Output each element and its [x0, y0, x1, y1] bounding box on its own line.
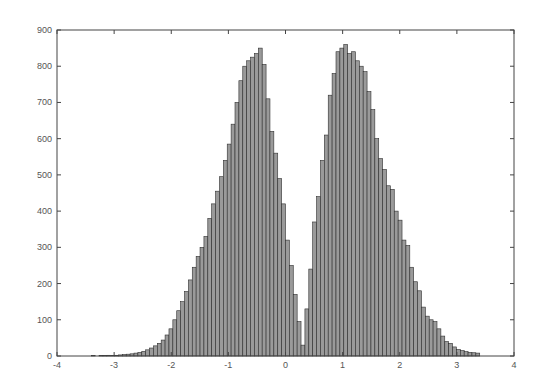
y-tick-label: 900 [37, 25, 52, 35]
histogram-bar [387, 186, 391, 356]
histogram-bar [165, 335, 169, 356]
histogram-bar [270, 131, 274, 356]
histogram-bar [153, 346, 157, 356]
histogram-bar [441, 336, 445, 356]
histogram-bar [282, 204, 286, 356]
y-tick-label: 300 [37, 242, 52, 252]
histogram-bar [328, 95, 332, 356]
histogram-bar [414, 282, 418, 356]
histogram-bar [320, 160, 324, 356]
histogram-bar [390, 189, 394, 356]
histogram-bar [332, 73, 336, 356]
y-tick-label: 500 [37, 170, 52, 180]
histogram-bar [433, 322, 437, 356]
histogram-bar [266, 99, 270, 356]
histogram-bar [375, 139, 379, 356]
y-tick-label: 600 [37, 134, 52, 144]
histogram-bar [235, 102, 239, 356]
histogram-bar [243, 66, 247, 356]
x-tick-label: 2 [397, 360, 402, 370]
histogram-bar [371, 110, 375, 356]
histogram-bar [297, 322, 301, 356]
histogram-bar [286, 240, 290, 356]
histogram-bar [289, 265, 293, 356]
histogram-bar [355, 61, 359, 356]
histogram-bar [185, 292, 189, 356]
histogram-bar [150, 348, 154, 356]
histogram-bar [437, 329, 441, 356]
histogram-bar [278, 179, 282, 356]
histogram-bar [219, 177, 223, 356]
histogram-bar [445, 342, 449, 356]
histogram-bar [410, 267, 414, 356]
histogram-bar [192, 267, 196, 356]
x-tick-label: -2 [167, 360, 175, 370]
histogram-chart: -4-3-2-101234 01002003004005006007008009… [0, 0, 544, 385]
histogram-bar [336, 52, 340, 356]
histogram-bar [247, 61, 251, 356]
histogram-bar [460, 351, 464, 356]
histogram-bar [398, 220, 402, 356]
histogram-bar [313, 222, 317, 356]
histogram-bar [309, 269, 313, 356]
histogram-bar [305, 309, 309, 356]
histogram-bar [383, 169, 387, 356]
histogram-bar [363, 72, 367, 356]
histogram-bar [367, 92, 371, 356]
x-tick-label: 4 [511, 360, 516, 370]
histogram-bar [394, 211, 398, 356]
histogram-bar [274, 153, 278, 356]
histogram-bar [258, 48, 262, 356]
x-tick-label: 1 [340, 360, 345, 370]
histogram-bar [406, 246, 410, 356]
histogram-bar [418, 291, 422, 356]
histogram-bar [169, 329, 173, 356]
histogram-bars [91, 44, 479, 356]
histogram-bar [324, 135, 328, 356]
x-tick-label: 3 [454, 360, 459, 370]
x-tick-label: -4 [53, 360, 61, 370]
histogram-bar [216, 191, 220, 356]
histogram-bar [262, 64, 266, 356]
histogram-bar [204, 236, 208, 356]
histogram-bar [340, 48, 344, 356]
histogram-bar [200, 247, 204, 356]
histogram-bar [251, 57, 255, 356]
histogram-bar [317, 197, 321, 356]
y-tick-label: 700 [37, 97, 52, 107]
histogram-bar [348, 54, 352, 356]
histogram-bar [379, 159, 383, 356]
histogram-bar [301, 345, 305, 356]
histogram-bar [223, 160, 227, 356]
histogram-bar [188, 280, 192, 356]
histogram-bar [453, 347, 457, 356]
histogram-bar [161, 340, 165, 356]
histogram-bar [227, 144, 231, 356]
histogram-bar [293, 294, 297, 356]
histogram-bar [429, 320, 433, 356]
y-tick-label: 200 [37, 279, 52, 289]
x-tick-label: -3 [110, 360, 118, 370]
y-tick-label: 100 [37, 315, 52, 325]
histogram-bar [138, 352, 142, 356]
histogram-bar [208, 218, 212, 356]
y-tick-label: 400 [37, 206, 52, 216]
histogram-bar [177, 311, 181, 356]
histogram-bar [421, 307, 425, 356]
histogram-bar [402, 240, 406, 356]
histogram-bar [344, 44, 348, 356]
x-tick-label: 0 [283, 360, 288, 370]
histogram-bar [359, 66, 363, 356]
histogram-bar [142, 351, 146, 356]
histogram-bar [464, 352, 468, 356]
histogram-bar [425, 316, 429, 356]
histogram-bar [212, 204, 216, 356]
histogram-bar [196, 256, 200, 356]
histogram-bar [157, 343, 161, 356]
x-tick-label: -1 [224, 360, 232, 370]
histogram-bar [352, 52, 356, 356]
y-tick-label: 0 [47, 351, 52, 361]
histogram-bar [146, 350, 150, 356]
histogram-bar [231, 124, 235, 356]
histogram-bar [173, 320, 177, 356]
